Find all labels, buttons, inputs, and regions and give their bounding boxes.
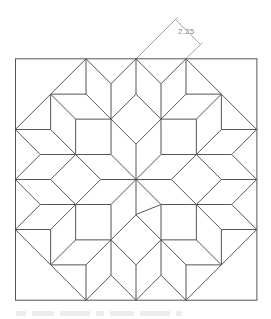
pattern-edge (51, 205, 76, 230)
pattern-edge (86, 240, 111, 265)
pattern-edge (196, 94, 221, 119)
dimension-extension-line (185, 45, 200, 60)
pattern-edge (136, 215, 161, 240)
pattern-edge (86, 275, 111, 300)
dimension-annotation (136, 18, 203, 60)
pattern-edge (136, 180, 161, 205)
pattern-edge (51, 240, 76, 265)
pattern-edge (51, 130, 76, 155)
pattern-edge (136, 155, 161, 180)
pattern-edge (111, 59, 136, 84)
pattern-edge (161, 59, 186, 84)
pattern-edge (111, 155, 136, 180)
pattern-edge (196, 205, 221, 230)
pattern-edge (196, 130, 221, 155)
pattern-edge (186, 265, 221, 300)
pattern-edge (232, 155, 257, 180)
pattern-edge (221, 230, 256, 265)
pattern-edge (15, 205, 40, 230)
pattern-edge (15, 230, 50, 265)
pattern-edge (171, 180, 196, 205)
pattern-edge (136, 275, 161, 300)
pattern-edge (51, 59, 86, 94)
pattern-edge (111, 275, 136, 300)
pattern-edge (171, 155, 196, 180)
pattern-edge (186, 59, 221, 94)
pattern-edge (15, 180, 40, 205)
pattern-edge (111, 240, 136, 265)
pattern-edge (86, 59, 111, 84)
quilt-diagram (0, 0, 271, 319)
pattern-edge (15, 94, 50, 129)
stray-edge (136, 205, 161, 215)
pattern-edge (161, 240, 186, 265)
pattern-edge (136, 94, 161, 119)
pattern-edge (51, 94, 76, 119)
pattern-edge (76, 155, 101, 180)
pattern-edge (111, 215, 136, 240)
dimension-extension-line (136, 20, 176, 60)
figure-caption (16, 311, 182, 317)
pattern-edge (161, 275, 186, 300)
pattern-edge (86, 94, 111, 119)
pattern-edge (196, 240, 221, 265)
pattern-edge (161, 94, 186, 119)
pattern-edge (196, 180, 221, 205)
pattern-edge (15, 130, 40, 155)
pattern-edge (196, 155, 221, 180)
pattern-edge (232, 180, 257, 205)
pattern-edge (111, 94, 136, 119)
pattern-edge (232, 205, 257, 230)
pattern-edge (221, 94, 256, 129)
pattern-edge (51, 265, 86, 300)
pattern-edge (76, 180, 101, 205)
stray-line (136, 205, 161, 215)
pattern-edge (136, 119, 161, 144)
dimension-label: 2.25 (178, 27, 194, 36)
pattern-edge (15, 155, 40, 180)
star-pattern-lines (15, 59, 256, 300)
pattern-edge (51, 180, 76, 205)
pattern-edge (111, 180, 136, 205)
pattern-edge (232, 130, 257, 155)
pattern-edge (136, 59, 161, 84)
pattern-edge (111, 119, 136, 144)
pattern-edge (136, 240, 161, 265)
pattern-edge (51, 155, 76, 180)
